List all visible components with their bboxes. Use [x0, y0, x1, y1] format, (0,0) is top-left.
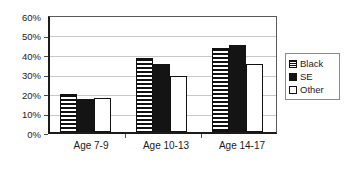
legend-label-black: Black — [300, 58, 323, 69]
legend-swatch-black-icon — [289, 60, 297, 68]
y-tick-label-40: 40% — [22, 52, 41, 62]
legend-swatch-se-icon — [289, 73, 297, 81]
y-axis: 60% 50% 40% 30% 20% 10% 0% — [0, 0, 44, 173]
x-tick-label-age-14-17: Age 14-17 — [209, 140, 275, 152]
y-tick-mark-0 — [44, 134, 48, 135]
bar-chart: 60% 50% 40% 30% 20% 10% 0% — [0, 0, 348, 173]
bars-layer — [50, 17, 276, 132]
bar-black-age-7-9 — [60, 94, 77, 132]
x-tick-mark-1 — [125, 134, 126, 138]
y-tick-label-0: 0% — [27, 130, 41, 140]
bar-se-age-10-13 — [153, 64, 170, 132]
bar-se-age-14-17 — [229, 45, 246, 132]
legend: Black SE Other — [285, 53, 340, 100]
x-tick-label-age-10-13: Age 10-13 — [133, 140, 199, 152]
legend-item-other: Other — [289, 83, 335, 96]
y-tick-label-60: 60% — [22, 13, 41, 23]
bar-other-age-10-13 — [170, 76, 187, 132]
x-tick-label-age-7-9: Age 7-9 — [58, 140, 124, 152]
legend-item-black: Black — [289, 57, 335, 70]
y-tick-label-20: 20% — [22, 91, 41, 101]
legend-label-se: SE — [300, 71, 313, 82]
plot-area — [48, 16, 277, 134]
y-tick-label-30: 30% — [22, 71, 41, 81]
bar-group-age-7-9 — [58, 17, 124, 132]
y-tick-label-50: 50% — [22, 32, 41, 42]
legend-swatch-other-icon — [289, 86, 297, 94]
y-tick-label-10: 10% — [22, 110, 41, 120]
bar-other-age-7-9 — [94, 98, 111, 132]
x-tick-mark-2 — [201, 134, 202, 138]
bar-group-age-10-13 — [134, 17, 200, 132]
bar-black-age-14-17 — [212, 48, 229, 132]
x-axis: Age 7-9 Age 10-13 Age 14-17 — [48, 140, 277, 160]
legend-label-other: Other — [300, 84, 324, 95]
legend-item-se: SE — [289, 70, 335, 83]
bar-other-age-14-17 — [246, 64, 263, 132]
bar-group-age-14-17 — [210, 17, 276, 132]
bar-se-age-7-9 — [77, 99, 94, 132]
bar-black-age-10-13 — [136, 58, 153, 132]
